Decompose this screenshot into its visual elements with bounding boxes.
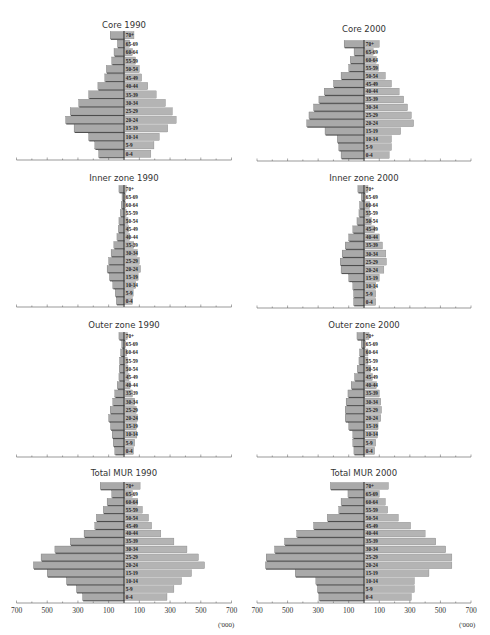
age-label: 25-29: [366, 407, 379, 413]
pyramid-row: 20-24: [33, 562, 204, 570]
pyramid-row: 30-34: [314, 104, 408, 112]
bar-left: [98, 82, 124, 89]
bar-left: [355, 374, 364, 381]
age-label: 30-34: [126, 399, 139, 405]
bar-left: [265, 562, 364, 569]
age-label: 45-49: [126, 523, 139, 529]
age-label: 50-54: [126, 366, 139, 372]
pyramid-row: 40-44: [117, 382, 138, 390]
pyramid-inner-1990: 0-45-910-1415-1920-2425-2930-3435-3940-4…: [17, 185, 232, 307]
pyramid-row: 20-24: [341, 266, 384, 274]
pyramid-row: 25-29: [266, 554, 452, 562]
age-label: 5-9: [126, 290, 133, 296]
pyramid-row: 5-9: [317, 586, 414, 594]
bar-left: [330, 483, 364, 490]
age-label: 5-9: [126, 440, 133, 446]
pyramid-row: 65-69: [117, 40, 138, 48]
bar-left: [349, 64, 364, 71]
bar-left: [119, 218, 124, 225]
age-label: 70+: [366, 41, 374, 47]
bar-left: [70, 108, 124, 115]
pyramid-row: 50-54: [327, 514, 398, 522]
bar-left: [359, 210, 364, 217]
axis-tick-label: 100: [343, 606, 355, 615]
pyramid-row: 45-49: [105, 74, 142, 82]
age-label: 30-34: [366, 104, 379, 110]
bar-left: [55, 546, 124, 553]
age-label: 15-19: [126, 125, 139, 131]
pyramid-row: 25-29: [70, 108, 172, 116]
pyramid-row: 15-19: [295, 570, 429, 578]
pyramid-row: 5-9: [339, 144, 392, 152]
bar-left: [66, 116, 124, 123]
bar-left: [110, 32, 124, 39]
age-label: 25-29: [366, 112, 379, 118]
pyramid-row: 20-24: [109, 415, 139, 423]
pyramid-inner-2000: 0-45-910-1415-1920-2425-2930-3435-3940-4…: [257, 185, 471, 308]
pyramid-row: 0-4: [341, 152, 389, 160]
pyramid-row: 70+: [330, 483, 388, 491]
pyramid-row: 65-69: [354, 48, 378, 56]
pyramid-row: 60-64: [121, 349, 139, 357]
pyramid-row: 60-64: [360, 349, 379, 357]
pyramid-row: 35-39: [114, 242, 138, 250]
bar-left: [337, 136, 364, 143]
bar-left: [121, 202, 124, 209]
bar-left: [341, 498, 364, 505]
bar-left: [345, 242, 364, 249]
pyramid-row: 50-54: [119, 218, 138, 226]
age-label: 0-4: [366, 448, 373, 454]
bar-left: [83, 594, 124, 601]
bar-left: [121, 349, 124, 356]
bar-left: [357, 333, 364, 340]
bar-left: [339, 506, 364, 513]
pyramid-row: 10-14: [112, 431, 138, 439]
bar-left: [348, 490, 364, 497]
pyramid-row: 35-39: [70, 538, 174, 546]
age-label: 60-64: [366, 57, 379, 63]
age-label: 50-54: [366, 218, 379, 224]
bar-left: [117, 234, 124, 241]
axis-tick-label: 700: [465, 606, 477, 615]
pyramid-row: 65-69: [122, 194, 138, 202]
age-label: 5-9: [366, 291, 373, 297]
age-label: 65-69: [366, 341, 379, 347]
pyramid-row: 15-19: [47, 570, 191, 578]
pyramid-outer-2000: 0-45-910-1415-1920-2425-2930-3435-3940-4…: [257, 332, 471, 457]
age-label: 30-34: [366, 251, 379, 257]
axis-tick-label: 300: [404, 606, 416, 615]
pyramid-row: 45-49: [118, 226, 138, 234]
pyramid-row: 50-54: [119, 365, 138, 373]
pyramid-row: 50-54: [106, 65, 139, 73]
bar-left: [341, 72, 364, 79]
age-label: 25-29: [126, 108, 139, 114]
bar-left: [106, 65, 124, 72]
pyramid-row: 20-24: [265, 562, 451, 570]
pyramid-row: 25-29: [41, 554, 198, 562]
age-label: 40-44: [366, 382, 379, 388]
age-label: 40-44: [126, 83, 139, 89]
age-label: 0-4: [126, 151, 133, 157]
age-label: 65-69: [126, 491, 139, 497]
bar-left: [361, 341, 364, 348]
age-label: 35-39: [126, 92, 139, 98]
pyramid-row: 10-14: [353, 431, 378, 439]
pyramid-row: 35-39: [115, 390, 139, 398]
bar-left: [66, 578, 124, 585]
axis-tick-label: 700: [251, 606, 263, 615]
pyramid-row: 50-54: [341, 72, 385, 80]
age-label: 25-29: [126, 554, 139, 560]
age-label: 60-64: [126, 349, 139, 355]
pyramid-row: 70+: [110, 32, 134, 40]
age-label: 55-59: [126, 507, 139, 513]
bar-left: [341, 152, 364, 159]
bar-left: [324, 88, 364, 95]
age-label: 20-24: [366, 120, 379, 126]
bar-left: [107, 266, 124, 273]
age-label: 5-9: [366, 440, 373, 446]
age-label: 65-69: [126, 341, 139, 347]
age-label: 50-54: [366, 366, 379, 372]
bar-left: [314, 522, 364, 529]
bar-left: [319, 96, 364, 103]
bar-left: [360, 349, 364, 356]
